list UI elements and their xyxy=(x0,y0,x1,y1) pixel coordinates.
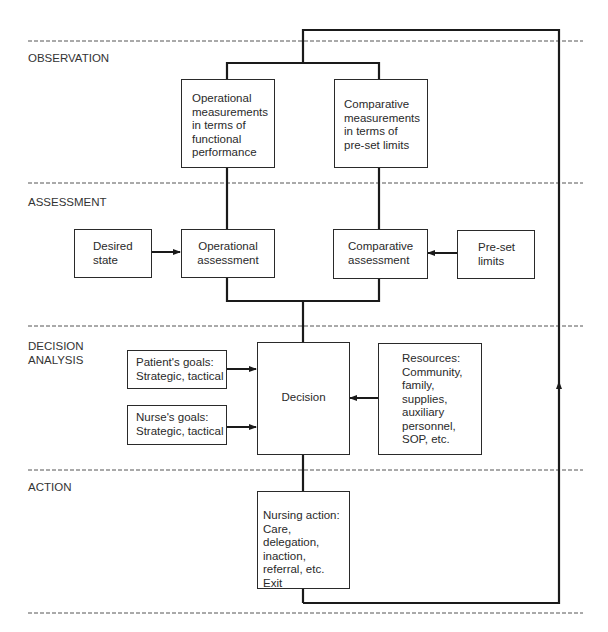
comparative-assessment-text: Comparative assessment xyxy=(348,240,413,267)
resources-box: Resources: Community, family, supplies, … xyxy=(378,343,482,455)
patient-goals-box: Patient's goals: Strategic, tactical xyxy=(127,350,227,389)
nursing-action-text: Nursing action: Care, delegation, inacti… xyxy=(263,509,349,590)
comparative-measurements-box: Comparative measurements in terms of pre… xyxy=(334,79,428,168)
stage-label-assessment: ASSESSMENT xyxy=(28,195,107,209)
desired-state-text: Desired state xyxy=(93,240,133,267)
operational-measurements-text: Operational measurements in terms of fun… xyxy=(192,92,268,160)
observation-split-line xyxy=(227,63,379,79)
nursing-action-box: Nursing action: Care, delegation, inacti… xyxy=(257,491,350,589)
nurse-goals-text: Nurse's goals: Strategic, tactical xyxy=(136,411,224,438)
decision-box: Decision xyxy=(257,342,350,455)
desired-state-box: Desired state xyxy=(74,229,152,278)
nurse-goals-box: Nurse's goals: Strategic, tactical xyxy=(127,405,227,445)
nursing-process-diagram: OBSERVATION ASSESSMENT DECISION ANALYSIS… xyxy=(0,0,608,632)
stage-label-action: ACTION xyxy=(28,480,71,494)
stage-label-decision-analysis: DECISION ANALYSIS xyxy=(28,339,84,367)
patient-goals-text: Patient's goals: Strategic, tactical xyxy=(136,356,224,383)
operational-assessment-box: Operational assessment xyxy=(181,229,275,278)
assessment-merge-line xyxy=(227,277,379,301)
operational-assessment-text: Operational assessment xyxy=(182,240,274,267)
preset-limits-text: Pre-set limits xyxy=(478,241,515,268)
preset-limits-box: Pre-set limits xyxy=(457,230,535,279)
comparative-measurements-text: Comparative measurements in terms of pre… xyxy=(344,98,420,152)
stage-label-observation: OBSERVATION xyxy=(28,51,109,65)
operational-measurements-box: Operational measurements in terms of fun… xyxy=(181,79,275,168)
decision-text: Decision xyxy=(258,391,349,405)
resources-text: Resources: Community, family, supplies, … xyxy=(402,352,463,447)
comparative-assessment-box: Comparative assessment xyxy=(333,229,428,279)
